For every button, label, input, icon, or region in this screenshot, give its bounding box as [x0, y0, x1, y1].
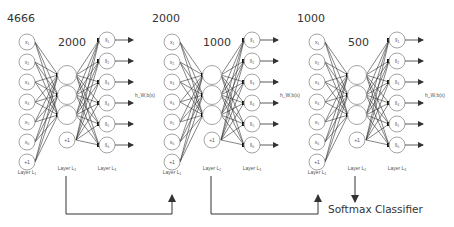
input-node: x₅ [309, 114, 325, 130]
layer-label: Layer L₁ [308, 169, 327, 175]
svg-text:+1: +1 [64, 137, 70, 143]
svg-text:x₁: x₁ [315, 39, 320, 45]
input-size-label: 4666 [7, 12, 35, 25]
input-node: x₂ [164, 54, 180, 70]
layer-label: Layer L₁ [163, 169, 182, 175]
hidden-node [203, 66, 222, 85]
svg-text:x̂₃: x̂₃ [105, 79, 110, 85]
hidden-bias-node: +1 [349, 132, 365, 148]
input-node: +1 [19, 154, 35, 170]
layer-label: Layer L₁ [18, 169, 37, 175]
svg-text:x₆: x₆ [25, 139, 30, 145]
hidden-bias-node: +1 [204, 132, 220, 148]
softmax-classifier-label: Softmax Classifier [328, 203, 424, 215]
layer-label: Layer L₂ [348, 165, 367, 171]
svg-text:x₆: x₆ [315, 139, 320, 145]
svg-text:x̂₃: x̂₃ [395, 79, 400, 85]
input-node: x₆ [309, 134, 325, 150]
hidden-node [58, 66, 77, 85]
input-node: x₆ [19, 134, 35, 150]
output-node: x̂₃ [389, 74, 423, 90]
svg-text:x̂₆: x̂₆ [250, 142, 255, 148]
input-node: x₂ [309, 54, 325, 70]
output-node: x̂₂ [244, 53, 278, 69]
input-node: x₁ [19, 34, 35, 50]
svg-text:x₄: x₄ [25, 99, 30, 105]
hidden-node [348, 106, 367, 125]
autoencoder-2: 20001000x₁x₂x₃x₄x₅x₆+1+1x̂₁x̂₂x̂₃x̂₄x̂₅x… [152, 12, 300, 175]
output-node: x̂₃ [99, 74, 133, 90]
hidden-node [348, 86, 367, 105]
svg-text:+1: +1 [209, 137, 215, 143]
input-node: +1 [164, 154, 180, 170]
layer-label: Layer L₃ [243, 165, 262, 171]
svg-text:x₂: x₂ [315, 59, 320, 65]
svg-text:x̂₅: x̂₅ [395, 121, 400, 127]
svg-text:x̂₄: x̂₄ [105, 100, 110, 106]
output-node: x̂₅ [244, 116, 278, 132]
input-node: x₅ [164, 114, 180, 130]
hidden-node [58, 106, 77, 125]
svg-text:x₃: x₃ [170, 79, 175, 85]
svg-text:x₂: x₂ [25, 59, 30, 65]
svg-text:x̂₂: x̂₂ [105, 58, 110, 64]
svg-text:x̂₅: x̂₅ [250, 121, 255, 127]
output-node: x̂₃ [244, 74, 278, 90]
svg-text:x̂₆: x̂₆ [395, 142, 400, 148]
svg-text:x̂₃: x̂₃ [250, 79, 255, 85]
layer-label: Layer L₃ [98, 165, 117, 171]
output-node: x̂₅ [389, 116, 423, 132]
svg-text:x₆: x₆ [170, 139, 175, 145]
svg-text:x₁: x₁ [170, 39, 175, 45]
svg-text:+1: +1 [169, 159, 175, 165]
input-node: x₁ [164, 34, 180, 50]
output-node: x̂₄ [389, 95, 423, 111]
output-node: x̂₄ [99, 95, 133, 111]
input-node: x₃ [19, 74, 35, 90]
input-node: x₄ [309, 94, 325, 110]
hidden-node [348, 66, 367, 85]
svg-text:x̂₁: x̂₁ [250, 37, 255, 43]
svg-text:+1: +1 [24, 159, 30, 165]
output-node: x̂₁ [99, 32, 133, 48]
input-node: x₁ [309, 34, 325, 50]
svg-text:x₅: x₅ [170, 119, 175, 125]
stacked-autoencoder-diagram: 46662000x₁x₂x₃x₄x₅x₆+1+1x̂₁x̂₂x̂₃x̂₄x̂₅x… [0, 0, 454, 227]
svg-text:x̂₁: x̂₁ [105, 37, 110, 43]
svg-text:x̂₁: x̂₁ [395, 37, 400, 43]
svg-text:x̂₅: x̂₅ [105, 121, 110, 127]
svg-text:x₁: x₁ [25, 39, 30, 45]
svg-text:x̂₂: x̂₂ [395, 58, 400, 64]
input-node: x₄ [164, 94, 180, 110]
output-function-label: h_W,b(x) [280, 92, 300, 98]
hidden-size-label: 1000 [203, 36, 231, 49]
layer-label: Layer L₂ [203, 165, 222, 171]
hidden-node [203, 86, 222, 105]
svg-text:x̂₄: x̂₄ [395, 100, 400, 106]
svg-text:x̂₄: x̂₄ [250, 100, 255, 106]
svg-text:x̂₆: x̂₆ [105, 142, 110, 148]
svg-text:x₃: x₃ [25, 79, 30, 85]
output-node: x̂₄ [244, 95, 278, 111]
svg-text:x₄: x₄ [170, 99, 175, 105]
output-node: x̂₁ [244, 32, 278, 48]
connector-ae2-to-ae3 [211, 176, 318, 214]
input-size-label: 2000 [152, 12, 180, 25]
output-node: x̂₆ [99, 137, 133, 153]
svg-text:x₅: x₅ [25, 119, 30, 125]
svg-text:x₅: x₅ [315, 119, 320, 125]
input-node: x₃ [164, 74, 180, 90]
hidden-node [58, 86, 77, 105]
output-node: x̂₂ [389, 53, 423, 69]
hidden-node [203, 106, 222, 125]
input-node: +1 [309, 154, 325, 170]
input-node: x₃ [309, 74, 325, 90]
output-function-label: h_W,b(x) [425, 92, 445, 98]
svg-text:x₃: x₃ [315, 79, 320, 85]
layer-label: Layer L₃ [388, 165, 407, 171]
hidden-bias-node: +1 [59, 132, 75, 148]
input-node: x₂ [19, 54, 35, 70]
output-node: x̂₅ [99, 116, 133, 132]
output-node: x̂₆ [244, 137, 278, 153]
svg-text:x₄: x₄ [315, 99, 320, 105]
